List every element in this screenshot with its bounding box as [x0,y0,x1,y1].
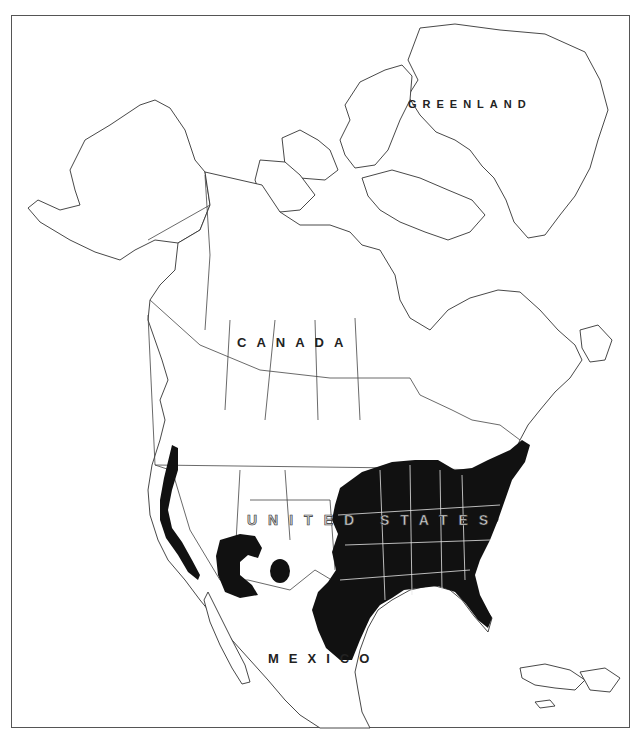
newfoundland-island [580,325,612,362]
hispaniola-island [580,668,620,692]
label-mexico: MEXICO [268,651,379,666]
jamaica-island [535,700,555,708]
alaska-landmass [28,100,210,260]
label-greenland: GREENLAND [408,98,532,110]
range-new-mexico [270,559,290,583]
baffin-island [362,170,485,240]
label-canada: CANADA [237,335,353,350]
ellesmere-island [340,65,412,168]
label-united-states: UNITED STATES [247,512,499,528]
cuba-island [520,664,585,690]
north-america-map [0,0,636,736]
